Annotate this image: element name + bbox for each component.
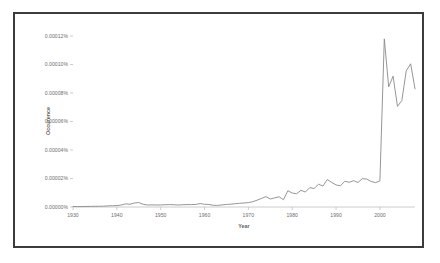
y-axis-tick-label: 0.00002% [45,175,68,181]
chart-figure-frame: 0.00000%0.00002%0.00004%0.00006%0.00008%… [13,12,424,248]
y-axis-title: Occurence [45,86,51,156]
y-axis-tick-label: 0.00000% [45,204,68,210]
x-axis-tick-label: 1990 [321,212,351,218]
x-axis-tick-label: 1980 [277,212,307,218]
x-axis-title: Year [58,223,430,229]
x-axis-tick-label: 1940 [102,212,132,218]
x-axis-tick-label: 1930 [58,212,88,218]
screenshot-root: 0.00000%0.00002%0.00004%0.00006%0.00008%… [0,0,440,263]
x-axis-tick-label: 2000 [365,212,395,218]
x-axis-tick-label: 1960 [190,212,220,218]
x-axis-tick-label: 1950 [146,212,176,218]
y-axis-tick-label: 0.00012% [45,33,68,39]
y-axis-tick-label: 0.00010% [45,61,68,67]
x-axis-tick-label: 1970 [233,212,263,218]
data-series-occurence [73,39,415,207]
